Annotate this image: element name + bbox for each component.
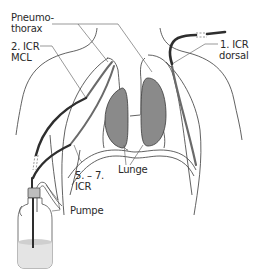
label-icr1-dorsal: 1. ICR dorsal [219, 39, 249, 61]
drainage-bottle [18, 188, 52, 268]
label-pneumothorax-line1: Pneumo- [11, 12, 54, 23]
label-icr2-line1: 2. ICR [11, 41, 39, 52]
label-icr57-line1: 5. – 7. [75, 170, 104, 181]
lungs [105, 78, 166, 148]
leader-lines [40, 24, 218, 211]
label-pneumothorax: Pneumo- thorax [11, 12, 54, 34]
label-pneumothorax-line2: thorax [11, 23, 54, 34]
right-lung [141, 78, 166, 146]
torso-outline [16, 28, 242, 215]
drain-tubes-internal [70, 62, 196, 165]
drain-tubes-external [32, 32, 225, 245]
left-lung [105, 88, 128, 148]
label-icr1-line2: dorsal [219, 50, 249, 61]
label-pumpe: Pumpe [70, 205, 103, 216]
label-icr1-line1: 1. ICR [219, 39, 249, 50]
label-icr5-7: 5. – 7. ICR [75, 170, 104, 192]
label-icr57-line2: ICR [75, 181, 104, 192]
label-icr2-line2: MCL [11, 52, 39, 63]
label-icr2-mcl: 2. ICR MCL [11, 41, 39, 63]
label-lunge: Lunge [118, 164, 148, 175]
